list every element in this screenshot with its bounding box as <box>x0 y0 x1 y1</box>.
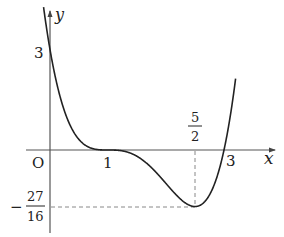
tick-label-y-min: − 27 16 <box>10 189 45 224</box>
function-curve <box>44 7 236 206</box>
origin-label: O <box>32 154 44 172</box>
tick-label-x-five-halves: 5 2 <box>188 110 202 144</box>
fraction-numerator: 5 <box>191 110 199 125</box>
minus-sign: − <box>10 198 23 216</box>
fraction-denominator: 2 <box>191 129 199 144</box>
tick-label-x-1: 1 <box>103 154 113 172</box>
function-graph: y x O 3 1 3 5 2 − 27 16 <box>0 0 284 237</box>
fraction-numerator: 27 <box>27 189 44 204</box>
y-axis-label: y <box>54 5 65 24</box>
x-axis-label: x <box>264 148 274 168</box>
tick-label-y-3: 3 <box>34 44 44 62</box>
tick-label-x-3: 3 <box>226 152 236 170</box>
fraction-denominator: 16 <box>27 209 44 224</box>
